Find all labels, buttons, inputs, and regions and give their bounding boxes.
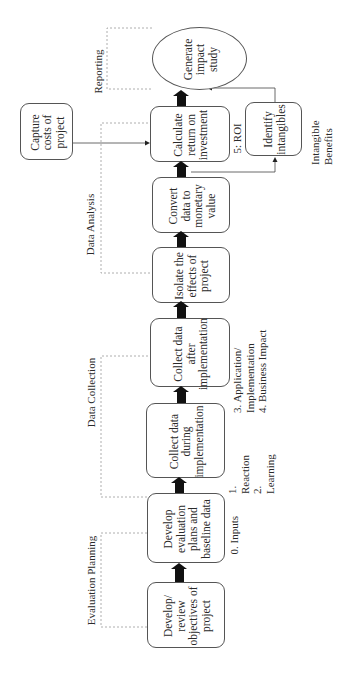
step-label: Generate impact study xyxy=(153,28,248,91)
step-isolate-effects: Isolate the effects of project xyxy=(152,247,230,303)
step-convert-data: Convert data to monetary value xyxy=(152,177,230,233)
side-box-identify-intangibles: Identify intangibles xyxy=(245,102,302,156)
step-label: Convert data to monetary value xyxy=(153,178,231,234)
step-label: Develop evaluation plans and baseline da… xyxy=(148,494,226,564)
level-label-inputs: 0. Inputs xyxy=(228,511,241,555)
level-label-reaction-learning: 1. Reaction 2. Learning xyxy=(226,444,252,494)
side-box-capture-costs: Capture costs of project xyxy=(20,103,73,160)
flow-arrow-up-icon xyxy=(175,568,184,582)
step-label: Develop/ review objectives of project xyxy=(148,583,226,649)
phase-label-data-analysis: Data Analysis xyxy=(84,185,97,265)
step-label: Collect data during implementation xyxy=(147,404,226,479)
flow-arrow-up-icon xyxy=(177,236,186,247)
step-collect-data-after: Collect data after implementation xyxy=(150,318,230,387)
level-label-application-impact: 3. Application/ Implementation 4. Busine… xyxy=(231,313,269,413)
step-develop-review-objectives: Develop/ review objectives of project xyxy=(147,582,225,648)
phase-label-reporting: Reporting xyxy=(92,42,105,102)
phase-label-data-collection: Data Collection xyxy=(85,348,98,438)
flow-arrow-up-icon xyxy=(177,306,186,318)
flow-arrow-up-icon xyxy=(177,95,186,106)
step-collect-data-during: Collect data during implementation xyxy=(146,403,225,478)
phase-label-evaluation-planning: Evaluation Planning xyxy=(85,531,98,631)
step-generate-impact-study: Generate impact study xyxy=(152,27,247,90)
level-label-intangible-benefits: Intangible Benefits xyxy=(309,109,335,165)
side-box-label: Capture costs of project xyxy=(21,104,74,161)
step-label: Calculate return on investment xyxy=(151,107,231,163)
step-label: Collect data after implementation xyxy=(151,320,231,389)
step-label: Isolate the effects of project xyxy=(153,248,231,304)
flow-arrow-up-icon xyxy=(177,166,186,177)
level-label-roi: 5: ROI xyxy=(231,114,244,154)
step-develop-evaluation-plans: Develop evaluation plans and baseline da… xyxy=(147,493,225,563)
flow-arrow-up-icon xyxy=(175,482,184,493)
flow-arrow-up-icon xyxy=(177,391,186,403)
side-box-label: Identify intangibles xyxy=(246,103,303,157)
step-calculate-roi: Calculate return on investment xyxy=(150,106,230,162)
